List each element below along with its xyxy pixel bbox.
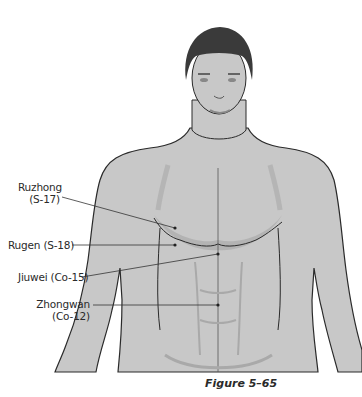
figure-caption: Figure 5–65 bbox=[205, 377, 277, 390]
label-jiuwei: Jiuwei (Co-15) bbox=[18, 271, 88, 283]
label-ruzhong: Ruzhong (S-17) bbox=[18, 181, 60, 205]
label-zhongwan: Zhongwan (Co-12) bbox=[30, 298, 90, 322]
torso bbox=[55, 100, 362, 372]
label-zhongwan-name: Zhongwan bbox=[30, 298, 90, 310]
label-ruzhong-name: Ruzhong bbox=[18, 181, 60, 193]
label-zhongwan-code: (Co-12) bbox=[30, 310, 90, 322]
label-rugen: Rugen (S-18) bbox=[8, 239, 74, 251]
label-ruzhong-code: (S-17) bbox=[18, 193, 60, 205]
